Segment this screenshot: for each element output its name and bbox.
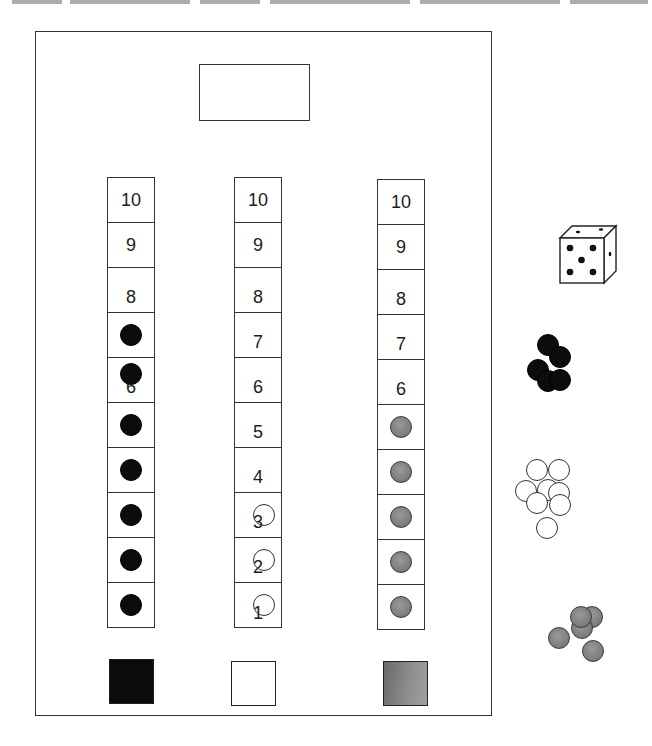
track-cell[interactable] — [378, 585, 424, 630]
clipped-header-text — [0, 0, 652, 8]
gray-chip[interactable] — [582, 640, 604, 662]
cell-number: 6 — [378, 380, 424, 398]
cell-number: 4 — [235, 468, 281, 486]
black-chip-placed[interactable] — [120, 459, 142, 481]
track-cell[interactable] — [108, 538, 154, 583]
white-chip[interactable] — [526, 492, 548, 514]
track-cell[interactable]: 6 — [378, 360, 424, 405]
track-cell[interactable]: 8 — [235, 268, 281, 313]
gray-chip-placed[interactable] — [390, 506, 412, 528]
white-chip[interactable] — [549, 494, 571, 516]
white-chip-placed[interactable] — [253, 504, 275, 526]
black-chip-placed[interactable] — [120, 414, 142, 436]
swatch-gray — [383, 661, 428, 706]
track-cell[interactable]: 7 — [378, 315, 424, 360]
cell-number: 7 — [378, 335, 424, 353]
track-white: 10987654321 — [234, 177, 282, 628]
track-cell[interactable]: 10 — [235, 178, 281, 223]
swatch-white — [231, 661, 276, 706]
cell-number: 5 — [235, 423, 281, 441]
black-chip[interactable] — [549, 346, 571, 368]
track-cell[interactable]: 3 — [235, 493, 281, 538]
black-chip-placed[interactable] — [120, 594, 142, 616]
track-black: 10986 — [107, 177, 155, 628]
track-cell[interactable] — [378, 495, 424, 540]
cell-number: 6 — [235, 378, 281, 396]
cell-number: 9 — [235, 236, 281, 254]
track-cell[interactable] — [378, 450, 424, 495]
track-cell[interactable]: 10 — [378, 180, 424, 225]
black-chip[interactable] — [549, 369, 571, 391]
track-cell[interactable]: 7 — [235, 313, 281, 358]
track-cell[interactable] — [378, 405, 424, 450]
white-chip[interactable] — [548, 459, 570, 481]
gray-chip[interactable] — [548, 627, 570, 649]
gray-chip-placed[interactable] — [390, 416, 412, 438]
cell-number: 9 — [108, 236, 154, 254]
black-chip-placed[interactable] — [120, 324, 142, 346]
gray-chip[interactable] — [570, 606, 592, 628]
swatch-black — [109, 659, 154, 704]
track-cell[interactable]: 4 — [235, 448, 281, 493]
die-icon[interactable] — [550, 218, 620, 288]
track-cell[interactable] — [378, 540, 424, 585]
black-chip-placed[interactable] — [120, 549, 142, 571]
track-cell[interactable]: 10 — [108, 178, 154, 223]
track-cell[interactable]: 8 — [108, 268, 154, 313]
black-chip-placed[interactable] — [120, 504, 142, 526]
track-cell[interactable]: 6 — [108, 358, 154, 403]
track-cell[interactable]: 8 — [378, 270, 424, 315]
track-cell[interactable] — [108, 493, 154, 538]
track-cell[interactable] — [108, 313, 154, 358]
track-cell[interactable]: 1 — [235, 583, 281, 628]
board-title-box — [199, 64, 310, 121]
track-cell[interactable]: 6 — [235, 358, 281, 403]
cell-number: 8 — [378, 290, 424, 308]
track-cell[interactable]: 9 — [235, 223, 281, 268]
cell-number: 8 — [235, 288, 281, 306]
gray-chip-placed[interactable] — [390, 596, 412, 618]
white-chip-placed[interactable] — [253, 594, 275, 616]
track-cell[interactable] — [108, 403, 154, 448]
track-cell[interactable]: 9 — [378, 225, 424, 270]
black-chip-placed[interactable] — [120, 363, 142, 385]
white-chip[interactable] — [526, 459, 548, 481]
cell-number: 10 — [235, 191, 281, 209]
track-gray: 109876 — [377, 179, 425, 630]
cell-number: 10 — [378, 193, 424, 211]
cell-number: 8 — [108, 288, 154, 306]
track-cell[interactable]: 5 — [235, 403, 281, 448]
cell-number: 9 — [378, 238, 424, 256]
gray-chip-placed[interactable] — [390, 551, 412, 573]
track-cell[interactable]: 2 — [235, 538, 281, 583]
white-chip[interactable] — [536, 517, 558, 539]
white-chip-placed[interactable] — [253, 549, 275, 571]
cell-number: 7 — [235, 333, 281, 351]
track-cell[interactable] — [108, 448, 154, 493]
cell-number: 10 — [108, 191, 154, 209]
gray-chip-placed[interactable] — [390, 461, 412, 483]
track-cell[interactable]: 9 — [108, 223, 154, 268]
track-cell[interactable] — [108, 583, 154, 628]
